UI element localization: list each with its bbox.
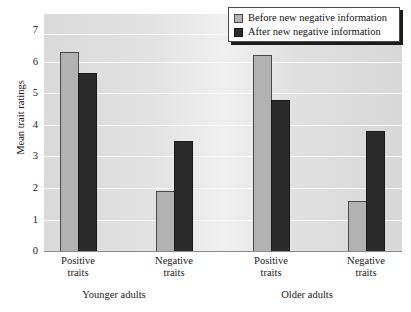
group-label-younger-adults: Younger adults: [39, 289, 189, 301]
gridline-4: [44, 125, 402, 126]
bar-younger-positive-before: [60, 52, 79, 252]
gridline-3: [44, 156, 402, 157]
gridline-2: [44, 188, 402, 189]
x-axis-line: [44, 251, 402, 252]
bar-older-positive-after: [271, 100, 290, 252]
y-tick-7: 7: [4, 25, 38, 35]
legend-item-after: After new negative information: [234, 25, 394, 39]
category-label-older-negative: Negative traits: [330, 255, 402, 278]
legend-item-before: Before new negative information: [234, 11, 394, 25]
category-label-younger-negative: Negative traits: [138, 255, 210, 278]
category-line-1: Negative: [347, 255, 385, 266]
bar-younger-positive-after: [78, 73, 97, 252]
y-tick-0: 0: [4, 246, 38, 256]
bar-older-negative-after: [366, 131, 385, 252]
legend-swatch-icon-after: [234, 28, 243, 37]
gridline-5: [44, 93, 402, 94]
group-label-older-adults: Older adults: [232, 289, 382, 301]
bar-chart-figure: 7 6 5 4 3 2 1 0 Mean trait ratings Posit…: [0, 0, 411, 312]
category-line-2: traits: [68, 267, 89, 278]
bar-older-negative-before: [348, 201, 367, 252]
y-tick-1: 1: [4, 215, 38, 225]
category-label-older-positive: Positive traits: [235, 255, 307, 278]
category-line-1: Positive: [61, 255, 95, 266]
gridline-6: [44, 62, 402, 63]
category-line-2: traits: [164, 267, 185, 278]
legend-label-after: After new negative information: [248, 26, 381, 38]
legend-label-before: Before new negative information: [248, 12, 387, 24]
bar-older-positive-before: [253, 55, 272, 252]
category-line-2: traits: [261, 267, 282, 278]
y-axis-title: Mean trait ratings: [15, 48, 26, 188]
bar-younger-negative-before: [156, 191, 175, 252]
legend-swatch-icon-before: [234, 14, 243, 23]
legend: Before new negative information After ne…: [228, 7, 400, 42]
category-line-1: Positive: [254, 255, 288, 266]
category-label-younger-positive: Positive traits: [42, 255, 114, 278]
bar-younger-negative-after: [174, 141, 193, 252]
category-line-1: Negative: [155, 255, 193, 266]
plot-area: [44, 14, 402, 252]
category-line-2: traits: [356, 267, 377, 278]
